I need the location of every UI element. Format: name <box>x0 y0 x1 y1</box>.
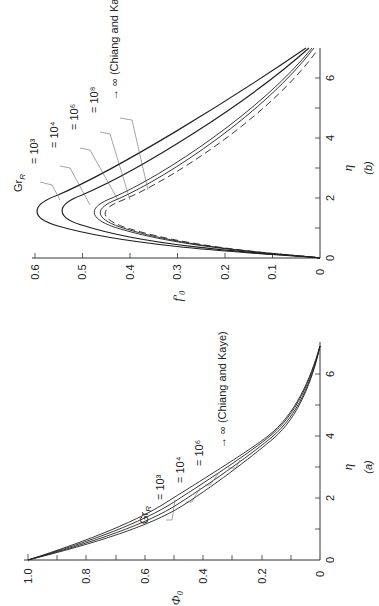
legend-title: GrR <box>12 174 27 192</box>
leader-line <box>40 182 60 200</box>
legend-item-1e3: = 10³ <box>154 474 166 500</box>
legend-item-1e8: = 10⁸ <box>88 87 100 113</box>
tick-label: 0.1 <box>266 264 278 279</box>
panel-a-label: (a) <box>362 460 374 474</box>
tick-label: 0.8 <box>80 568 92 583</box>
tick-label: 0.2 <box>256 568 268 583</box>
panel-a-legend: GrR = 10³ = 10⁴ = 10⁶ → ∞ (Chiang and Ka… <box>138 331 240 524</box>
legend-item-1e6: = 10⁶ <box>193 440 205 466</box>
tick-label: 0 <box>324 255 336 261</box>
panel-a: 0 2 4 6 0 0.2 0.4 0.6 0.8 1.0 η Φ₀ (a) G… <box>22 331 374 605</box>
panel-b-eta-tick-labels: 2 4 6 0 <box>324 75 336 261</box>
curve-1e8 <box>100 48 320 258</box>
legend-item-infinity: → ∞ (Chiang and Kaye) <box>108 0 120 100</box>
legend-item-1e4: = 10⁴ <box>48 121 60 148</box>
leader-line <box>80 148 118 200</box>
tick-label: 0.2 <box>219 264 231 279</box>
figure: 2 4 6 0 0 0.1 0.2 0.3 0.4 0.5 0.6 η f′₀ … <box>0 0 379 606</box>
panel-b-xlabel: η <box>340 165 355 171</box>
tick-label: 0 <box>314 571 326 577</box>
tick-label: 0.4 <box>197 568 209 583</box>
tick-label: 0.5 <box>76 264 88 279</box>
legend-item-1e3: = 10³ <box>28 138 40 164</box>
panel-a-eta-ticks <box>315 374 320 529</box>
panel-a-phi-ticks <box>28 554 291 560</box>
panel-b-legend: GrR = 10³ = 10⁴ = 10⁶ = 10⁸ → ∞ (Chiang … <box>12 0 148 205</box>
panel-a-xlabel: η <box>340 464 355 470</box>
tick-label: 0.3 <box>171 264 183 279</box>
panel-a-ylabel: Φ₀ <box>168 591 183 605</box>
legend-item-1e6: = 10⁶ <box>68 104 80 130</box>
panel-b: 2 4 6 0 0 0.1 0.2 0.3 0.4 0.5 0.6 η f′₀ … <box>12 0 374 301</box>
panel-a-curves <box>28 346 320 560</box>
tick-label: 4 <box>324 433 336 439</box>
curve-1e4 <box>28 346 320 560</box>
tick-label: 0.6 <box>29 264 41 279</box>
panel-b-label: (b) <box>362 161 374 175</box>
tick-label: 2 <box>324 495 336 501</box>
leader-line <box>60 166 90 205</box>
tick-label: 6 <box>324 371 336 377</box>
tick-label: 1.0 <box>22 568 34 583</box>
panel-b-fprime-tick-labels: 0 0.1 0.2 0.3 0.4 0.5 0.6 <box>29 264 326 279</box>
panel-b-fprime-ticks <box>35 253 273 258</box>
tick-label: 0.6 <box>139 568 151 583</box>
panel-a-phi-tick-labels: 0 0.2 0.4 0.6 0.8 1.0 <box>22 568 326 583</box>
tick-label: 0 <box>324 557 336 563</box>
curve-infinity-chiang-kaye <box>28 346 320 560</box>
panel-b-ylabel: f′₀ <box>170 291 185 302</box>
panel-a-eta-tick-labels: 0 2 4 6 <box>324 371 336 563</box>
legend-item-1e4: = 10⁴ <box>174 456 186 483</box>
curve-1e6 <box>28 346 320 560</box>
tick-label: 0 <box>314 269 326 275</box>
tick-label: 2 <box>324 195 336 201</box>
tick-label: 0.4 <box>124 264 136 279</box>
panel-b-eta-ticks <box>315 78 320 228</box>
tick-label: 6 <box>324 75 336 81</box>
curve-1e3 <box>28 346 320 560</box>
legend-item-infinity: → ∞ (Chiang and Kaye) <box>216 331 228 448</box>
curve-infinity-chiang-kaye <box>105 52 320 258</box>
curve-1e3 <box>37 48 320 258</box>
leader-line <box>120 118 148 190</box>
panel-b-curves <box>37 48 320 258</box>
tick-label: 4 <box>324 135 336 141</box>
